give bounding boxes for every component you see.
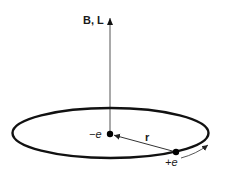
- orbit-charge-dot: [173, 149, 179, 155]
- orbit-charge-label: +e: [165, 156, 178, 168]
- center-charge-label: −e: [89, 128, 102, 140]
- radius-label: r: [145, 131, 150, 143]
- axis-label: B, L: [83, 14, 104, 26]
- diagram-canvas: B, L −e r +e: [0, 0, 226, 174]
- center-charge-dot: [107, 131, 113, 137]
